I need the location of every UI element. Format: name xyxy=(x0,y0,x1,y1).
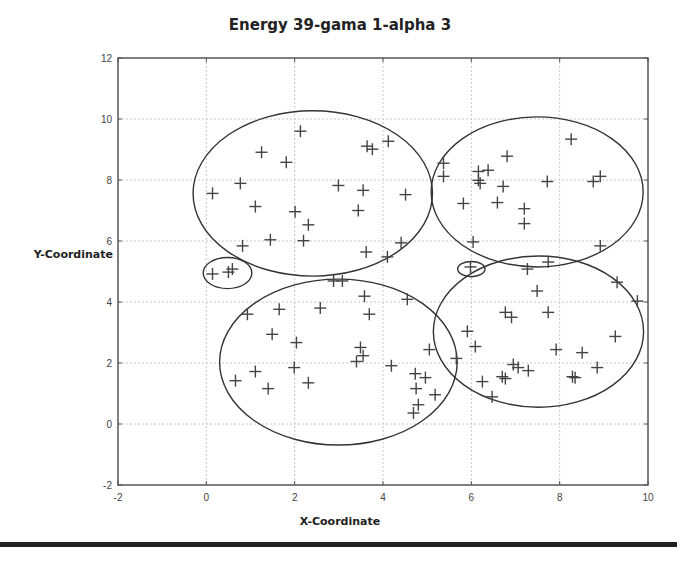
data-point xyxy=(496,371,508,383)
data-point xyxy=(207,187,219,199)
x-tick-label: 10 xyxy=(642,492,654,503)
data-point xyxy=(591,362,603,374)
data-point xyxy=(381,251,393,263)
data-point xyxy=(518,218,530,230)
data-point xyxy=(352,205,364,217)
divider-rule xyxy=(0,542,677,547)
y-tick-label: -2 xyxy=(103,480,112,491)
data-point xyxy=(476,376,488,388)
cluster-ellipse-top-right xyxy=(431,117,643,267)
data-point xyxy=(569,372,581,384)
x-tick-label: 6 xyxy=(469,492,475,503)
data-point xyxy=(361,140,373,152)
data-point xyxy=(351,355,363,367)
data-point xyxy=(423,344,435,356)
y-tick-label: 2 xyxy=(106,358,112,369)
data-point xyxy=(280,156,292,168)
x-tick-label: -2 xyxy=(114,492,123,503)
data-point xyxy=(363,308,375,320)
data-point xyxy=(302,377,314,389)
data-point xyxy=(385,360,397,372)
x-tick-label: 8 xyxy=(557,492,563,503)
y-axis-label: Y-Coordinate xyxy=(33,248,113,261)
data-point xyxy=(410,383,422,395)
data-point xyxy=(467,236,479,248)
data-point xyxy=(450,352,462,364)
data-point xyxy=(256,146,268,158)
y-tick-label: 0 xyxy=(106,419,112,430)
cluster-ellipse-small-left xyxy=(203,257,252,288)
data-point xyxy=(521,263,533,275)
data-point xyxy=(249,366,261,378)
data-point xyxy=(438,157,450,169)
cluster-ellipse-bottom-left xyxy=(220,279,458,445)
data-point xyxy=(336,275,348,287)
data-point xyxy=(518,203,530,215)
data-point xyxy=(474,177,486,189)
data-point xyxy=(294,125,306,137)
data-point xyxy=(491,197,503,209)
x-tick-label: 2 xyxy=(292,492,298,503)
data-point xyxy=(401,293,413,305)
data-points xyxy=(207,125,644,419)
data-point xyxy=(249,201,261,213)
x-tick-label: 4 xyxy=(380,492,386,503)
data-point xyxy=(302,219,314,231)
data-point xyxy=(290,337,302,349)
data-point xyxy=(262,383,274,395)
scatter-chart: Energy 39-gama 1-alpha 3 -20246810-20246… xyxy=(0,0,677,563)
chart-title: Energy 39-gama 1-alpha 3 xyxy=(229,16,451,34)
data-point xyxy=(482,164,494,176)
grid-lines xyxy=(118,58,648,485)
data-point xyxy=(566,371,578,383)
x-tick-label: 0 xyxy=(204,492,210,503)
y-tick-label: 4 xyxy=(106,297,112,308)
data-point xyxy=(400,189,412,201)
data-point xyxy=(357,350,369,362)
data-point xyxy=(542,306,554,318)
data-point xyxy=(207,268,219,280)
data-point xyxy=(541,176,553,188)
data-point xyxy=(565,133,577,145)
data-point xyxy=(234,177,246,189)
y-tick-label: 6 xyxy=(106,236,112,247)
cluster-ellipses xyxy=(193,111,644,445)
y-tick-label: 8 xyxy=(106,175,112,186)
data-point xyxy=(354,341,366,353)
data-point xyxy=(531,285,543,297)
data-point xyxy=(273,303,285,315)
data-point xyxy=(289,206,301,218)
data-point xyxy=(358,290,370,302)
data-point xyxy=(357,184,369,196)
data-point xyxy=(499,373,511,385)
data-point xyxy=(429,389,441,401)
data-point xyxy=(631,295,643,307)
data-point xyxy=(501,150,513,162)
data-point xyxy=(576,347,588,359)
data-point xyxy=(550,344,562,356)
x-axis-label: X-Coordinate xyxy=(300,515,380,528)
data-point xyxy=(229,375,241,387)
data-point xyxy=(395,237,407,249)
data-point xyxy=(298,235,310,247)
data-point xyxy=(237,240,249,252)
data-point xyxy=(609,330,621,342)
y-tick-label: 10 xyxy=(101,114,113,125)
data-point xyxy=(472,174,484,186)
data-point xyxy=(332,179,344,191)
data-point xyxy=(382,135,394,147)
data-point xyxy=(266,328,278,340)
data-point xyxy=(522,365,534,377)
y-tick-label: 12 xyxy=(101,53,113,64)
data-point xyxy=(457,197,469,209)
data-point xyxy=(438,170,450,182)
cluster-ellipse-top-left xyxy=(193,111,432,276)
data-point xyxy=(497,180,509,192)
data-point xyxy=(241,308,253,320)
data-point xyxy=(366,143,378,155)
data-point xyxy=(314,302,326,314)
data-point xyxy=(587,176,599,188)
data-point xyxy=(264,234,276,246)
data-point xyxy=(594,170,606,182)
data-point xyxy=(360,246,372,258)
